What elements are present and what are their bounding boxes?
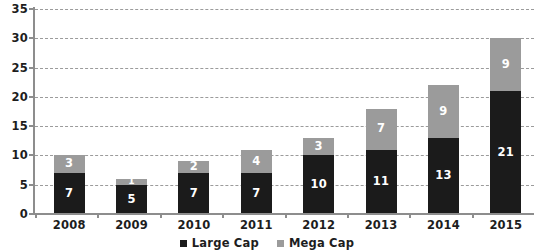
bar-segment-mega-cap-2010[interactable]: 2: [178, 161, 209, 173]
bar-segment-mega-cap-2011[interactable]: 4: [241, 150, 272, 173]
y-axis-tick-label: 5: [0, 178, 28, 192]
y-axis-tick-label: 35: [0, 2, 28, 16]
legend-label: Large Cap: [192, 236, 259, 250]
legend-label: Mega Cap: [289, 236, 354, 250]
bar-value-label: 2: [190, 161, 198, 173]
bar-segment-mega-cap-2012[interactable]: 3: [303, 138, 334, 156]
x-axis-tick-mark: [97, 213, 99, 218]
bar-value-label: 9: [502, 59, 510, 71]
y-axis-tick-mark: [29, 67, 35, 69]
bar-segment-large-cap-2010[interactable]: 7: [178, 173, 209, 214]
x-axis-tick-mark: [409, 213, 411, 218]
bar-value-label: 3: [315, 141, 323, 153]
bar-value-label: 13: [435, 170, 451, 182]
bar-segment-large-cap-2014[interactable]: 13: [428, 138, 459, 214]
gridline: [35, 97, 534, 98]
gridline: [35, 155, 534, 156]
bar-value-label: 1: [128, 177, 134, 186]
x-axis-tick-label-2012: 2012: [302, 218, 335, 232]
gridline: [35, 68, 534, 69]
gridline: [35, 9, 534, 10]
bar-value-label: 10: [310, 179, 326, 191]
bar-segment-large-cap-2013[interactable]: 11: [366, 150, 397, 214]
x-axis-tick-mark: [35, 213, 37, 218]
y-axis-tick-label: 10: [0, 148, 28, 162]
bar-stack-2008[interactable]: 73: [54, 9, 85, 214]
x-axis-tick-mark: [285, 213, 287, 218]
y-axis-label-group: 05101520253035: [0, 0, 28, 252]
bar-segment-mega-cap-2008[interactable]: 3: [54, 155, 85, 173]
chart-legend: Large CapMega Cap: [0, 236, 534, 250]
bar-value-label: 5: [127, 194, 135, 206]
y-axis-tick-mark: [29, 154, 35, 156]
legend-swatch-icon: [180, 240, 187, 247]
legend-item-large-cap[interactable]: Large Cap: [180, 236, 259, 250]
bar-value-label: 9: [439, 106, 447, 118]
x-axis-tick-mark: [472, 213, 474, 218]
bar-stack-2012[interactable]: 103: [303, 9, 334, 214]
bar-value-label: 3: [65, 158, 73, 170]
bar-segment-mega-cap-2009[interactable]: 1: [116, 179, 147, 185]
x-axis-tick-mark: [160, 213, 162, 218]
bar-segment-large-cap-2015[interactable]: 21: [490, 91, 521, 214]
x-axis-tick-label-2015: 2015: [489, 218, 522, 232]
bar-stack-2009[interactable]: 51: [116, 9, 147, 214]
x-axis-tick-label-2014: 2014: [427, 218, 460, 232]
y-axis-tick-label: 0: [0, 207, 28, 221]
bar-stack-2010[interactable]: 72: [178, 9, 209, 214]
y-axis-tick-label: 30: [0, 31, 28, 45]
y-axis-tick-mark: [29, 184, 35, 186]
bar-value-label: 7: [190, 188, 198, 200]
x-axis-tick-mark: [347, 213, 349, 218]
legend-swatch-icon: [277, 240, 284, 247]
y-axis-tick-mark: [29, 125, 35, 127]
plot-area: 73517274103117139219: [35, 0, 534, 214]
x-axis-tick-mark: [222, 213, 224, 218]
x-axis-tick-label-2009: 2009: [115, 218, 148, 232]
y-axis-tick-mark: [29, 96, 35, 98]
y-axis-tick-label: 20: [0, 90, 28, 104]
bar-segment-mega-cap-2013[interactable]: 7: [366, 109, 397, 150]
bar-segment-large-cap-2011[interactable]: 7: [241, 173, 272, 214]
bar-value-label: 21: [498, 147, 514, 159]
bar-segment-large-cap-2012[interactable]: 10: [303, 155, 334, 214]
y-axis-tick-mark: [29, 8, 35, 10]
bar-segment-mega-cap-2014[interactable]: 9: [428, 85, 459, 138]
y-axis-tick-label: 25: [0, 61, 28, 75]
x-axis-tick-label-2013: 2013: [365, 218, 398, 232]
legend-item-mega-cap[interactable]: Mega Cap: [277, 236, 354, 250]
x-axis-tick-label-2008: 2008: [53, 218, 86, 232]
bar-stack-2011[interactable]: 74: [241, 9, 272, 214]
x-axis-tick-label-2011: 2011: [240, 218, 273, 232]
x-axis-line: [33, 213, 534, 215]
bar-value-label: 7: [252, 188, 260, 200]
bar-stack-2014[interactable]: 139: [428, 9, 459, 214]
bar-value-label: 7: [65, 188, 73, 200]
bar-stack-2013[interactable]: 117: [366, 9, 397, 214]
gridline: [35, 126, 534, 127]
gridline: [35, 185, 534, 186]
bar-segment-large-cap-2009[interactable]: 5: [116, 185, 147, 214]
bar-stack-2015[interactable]: 219: [490, 9, 521, 214]
stacked-bar-chart: 05101520253035 73517274103117139219 Larg…: [0, 0, 534, 252]
gridline: [35, 38, 534, 39]
bar-value-label: 11: [373, 176, 389, 188]
bar-value-label: 7: [377, 123, 385, 135]
y-axis-tick-label: 15: [0, 119, 28, 133]
bar-value-label: 4: [252, 156, 260, 168]
x-axis-tick-label-2010: 2010: [178, 218, 211, 232]
y-axis-tick-mark: [29, 37, 35, 39]
bar-segment-mega-cap-2015[interactable]: 9: [490, 38, 521, 91]
bar-segment-large-cap-2008[interactable]: 7: [54, 173, 85, 214]
